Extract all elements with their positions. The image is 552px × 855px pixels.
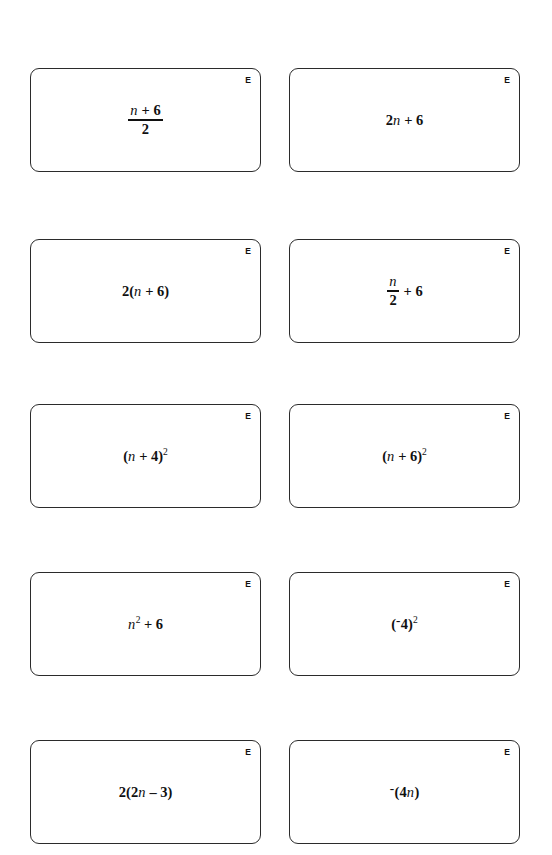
card-body: 2(2n–3): [31, 741, 260, 843]
paren-token: ): [414, 785, 419, 800]
expression-card[interactable]: E(-4)2: [289, 572, 520, 676]
number-token: 6: [416, 113, 423, 128]
number-token: 2: [122, 284, 129, 299]
paren-token: ): [164, 284, 169, 299]
math-expression: 2n+6: [386, 113, 424, 128]
number-token: 2: [131, 785, 138, 800]
math-expression: n+62: [127, 103, 163, 136]
operator-token: +: [141, 617, 156, 632]
operator-token: +: [400, 284, 415, 299]
operator-token: +: [138, 103, 153, 118]
variable-token: n: [128, 449, 136, 464]
expression-card[interactable]: E(n+4)2: [30, 404, 261, 508]
expression-card[interactable]: En2+6: [30, 572, 261, 676]
card-body: (n+6)2: [290, 405, 519, 507]
fraction-denominator: 2: [140, 121, 151, 137]
operator-token: +: [395, 449, 410, 464]
number-token: 6: [156, 617, 163, 632]
expression-card[interactable]: En+62: [30, 68, 261, 172]
number-token: 4: [401, 617, 408, 632]
number-token: 2: [390, 293, 397, 308]
fraction-numerator: n: [387, 274, 399, 290]
operator-token: +: [142, 284, 157, 299]
number-token: 6: [410, 449, 417, 464]
operator-token: –: [146, 785, 160, 800]
exponent-token: 2: [136, 615, 141, 625]
expression-card[interactable]: E(n+6)2: [289, 404, 520, 508]
card-body: (n+4)2: [31, 405, 260, 507]
variable-token: n: [407, 785, 415, 800]
expression-card[interactable]: E2(2n–3): [30, 740, 261, 844]
expression-card[interactable]: E-(4n): [289, 740, 520, 844]
math-expression: -(4n): [390, 785, 419, 800]
exponent-token: 2: [422, 447, 427, 457]
variable-token: n: [387, 449, 395, 464]
card-body: n2+6: [31, 573, 260, 675]
card-body: 2n+6: [290, 69, 519, 171]
fraction-denominator: 2: [388, 292, 399, 308]
operator-token: +: [136, 449, 151, 464]
math-expression: 2(n+6): [122, 284, 169, 299]
number-token: 6: [415, 284, 422, 299]
exponent-token: 2: [163, 447, 168, 457]
operator-token: +: [401, 113, 416, 128]
fraction: n2: [387, 274, 399, 307]
math-expression: (n+6)2: [382, 449, 427, 464]
expression-card-grid: En+62E2n+6E2(n+6)En2+6E(n+4)2E(n+6)2En2+…: [0, 0, 552, 855]
variable-token: n: [128, 617, 136, 632]
variable-token: n: [134, 284, 142, 299]
variable-token: n: [393, 113, 401, 128]
math-expression: n2+6: [386, 274, 422, 307]
math-expression: (n+4)2: [123, 449, 168, 464]
expression-card[interactable]: E2n+6: [289, 68, 520, 172]
negative-sign-token: -: [390, 782, 395, 795]
number-token: 3: [160, 785, 167, 800]
expression-card[interactable]: E2(n+6): [30, 239, 261, 343]
variable-token: n: [138, 785, 146, 800]
number-token: 4: [399, 785, 406, 800]
card-body: -(4n): [290, 741, 519, 843]
variable-token: n: [389, 274, 397, 289]
math-expression: 2(2n–3): [119, 785, 172, 800]
number-token: 2: [119, 785, 126, 800]
card-body: (-4)2: [290, 573, 519, 675]
card-body: 2(n+6): [31, 240, 260, 342]
exponent-token: 2: [413, 615, 418, 625]
number-token: 4: [151, 449, 158, 464]
fraction: n+62: [128, 103, 162, 136]
number-token: 6: [157, 284, 164, 299]
fraction-numerator: n+6: [128, 103, 162, 119]
worksheet-page: En+62E2n+6E2(n+6)En2+6E(n+4)2E(n+6)2En2+…: [0, 0, 552, 855]
paren-token: ): [167, 785, 172, 800]
number-token: 2: [142, 122, 149, 137]
card-body: n2+6: [290, 240, 519, 342]
number-token: 2: [386, 113, 393, 128]
variable-token: n: [130, 103, 138, 118]
expression-card[interactable]: En2+6: [289, 239, 520, 343]
number-token: 6: [153, 103, 160, 118]
math-expression: (-4)2: [391, 617, 417, 632]
math-expression: n2+6: [128, 617, 163, 632]
negative-sign-token: -: [396, 614, 401, 627]
card-body: n+62: [31, 69, 260, 171]
